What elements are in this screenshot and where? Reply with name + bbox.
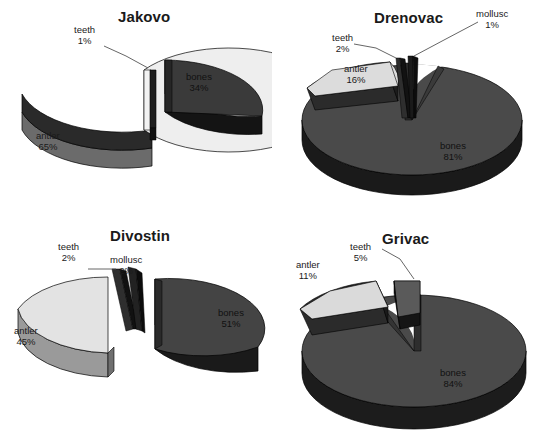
label-bones-pct: 81% (440, 151, 466, 162)
label-antler: antler 16% (344, 63, 368, 85)
label-bones-pct: 84% (440, 378, 466, 389)
label-mollusc-pct: 2% (110, 265, 142, 276)
label-bones: bones 51% (218, 307, 244, 329)
chart-title-divostin: Divostin (110, 227, 170, 244)
label-antler-text: antler (344, 63, 368, 74)
drenovac-pie-svg (272, 0, 543, 221)
chart-title-drenovac: Drenovac (374, 9, 443, 26)
label-bones-text: bones (440, 140, 466, 151)
pie-chart-grid: Jakovo teeth 1% antler 65% bones 34% (0, 0, 543, 442)
slice-bones (155, 278, 265, 372)
label-bones-text: bones (218, 307, 244, 318)
leader-line-teeth (382, 249, 414, 279)
label-teeth-pct: 5% (350, 252, 371, 263)
label-antler: antler 45% (14, 325, 38, 347)
label-mollusc: mollusc 1% (476, 8, 508, 30)
label-teeth-text: teeth (350, 241, 371, 252)
label-teeth-pct: 1% (74, 35, 95, 46)
grivac-pie-svg (272, 221, 543, 442)
label-antler: antler 65% (36, 130, 60, 152)
label-teeth: teeth 2% (58, 241, 79, 263)
leader-line-teeth (104, 46, 148, 68)
label-mollusc-pct: 1% (476, 19, 508, 30)
label-antler-pct: 11% (296, 270, 320, 281)
label-teeth-text: teeth (74, 24, 95, 35)
label-bones-pct: 51% (218, 318, 244, 329)
label-antler-text: antler (36, 130, 60, 141)
label-teeth: teeth 2% (332, 32, 353, 54)
chart-panel-jakovo: Jakovo teeth 1% antler 65% bones 34% (0, 0, 272, 221)
label-mollusc-text: mollusc (476, 8, 508, 19)
label-antler: antler 11% (296, 259, 320, 281)
chart-title-grivac: Grivac (382, 230, 429, 247)
label-bones: bones 81% (440, 140, 466, 162)
label-antler-text: antler (14, 325, 38, 336)
label-teeth-text: teeth (332, 32, 353, 43)
chart-panel-divostin: Divostin teeth 2% mollusc 2% antler 45% … (0, 221, 272, 442)
label-bones-pct: 34% (186, 82, 212, 93)
leader-line-teeth (354, 44, 396, 58)
leader-line-mollusc (414, 22, 478, 56)
label-mollusc: mollusc 2% (110, 254, 142, 276)
label-antler-pct: 16% (344, 74, 368, 85)
label-teeth-pct: 2% (332, 43, 353, 54)
chart-panel-drenovac: Drenovac mollusc 1% teeth 2% antler 16% … (272, 0, 543, 221)
chart-title-jakovo: Jakovo (118, 8, 170, 25)
label-bones: bones 34% (186, 71, 212, 93)
label-bones-text: bones (440, 367, 466, 378)
label-bones-text: bones (186, 71, 212, 82)
chart-panel-grivac: Grivac teeth 5% antler 11% bones 84% (272, 221, 543, 442)
slice-mollusc (408, 56, 418, 118)
label-antler-pct: 65% (36, 141, 60, 152)
label-teeth-text: teeth (58, 241, 79, 252)
label-bones: bones 84% (440, 367, 466, 389)
label-mollusc-text: mollusc (110, 254, 142, 265)
slice-teeth (150, 70, 156, 140)
label-teeth-pct: 2% (58, 252, 79, 263)
label-teeth: teeth 5% (350, 241, 371, 263)
label-antler-text: antler (296, 259, 320, 270)
jakovo-pie-svg (0, 0, 272, 221)
label-antler-pct: 45% (14, 336, 38, 347)
label-teeth: teeth 1% (74, 24, 95, 46)
